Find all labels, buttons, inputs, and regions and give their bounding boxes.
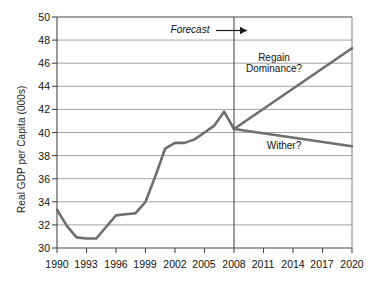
chart-figure: Real GDP per Capita (000s) 50 48 46 44 4… <box>0 0 371 283</box>
chart-plot-area <box>0 0 371 283</box>
series-regain-dominance-line <box>234 48 352 129</box>
series-historical-line <box>57 112 234 239</box>
x-tick-marks <box>57 248 352 253</box>
forecast-arrow-icon <box>216 27 247 34</box>
series-wither-line <box>234 129 352 146</box>
y-tick-marks <box>52 17 57 248</box>
